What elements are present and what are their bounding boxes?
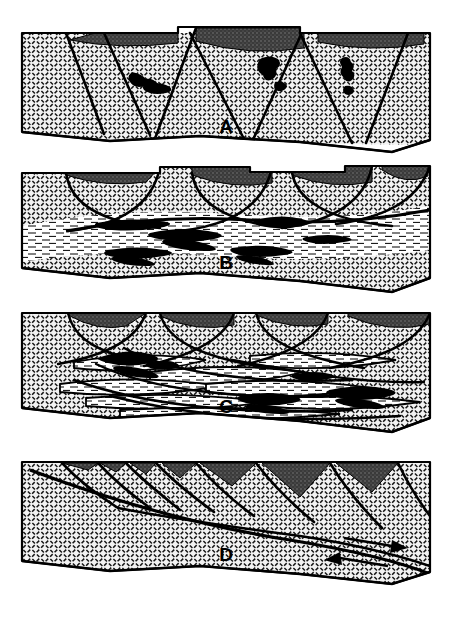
panel-c: C [22, 310, 430, 435]
panel-d-label: D [219, 544, 233, 565]
cross-section-figure: A [0, 0, 452, 620]
panel-c-label: C [219, 396, 233, 417]
figure-root: A [0, 0, 452, 620]
panel-b: B [22, 166, 430, 295]
panel-b-label: B [219, 252, 233, 273]
panel-a: A [22, 27, 430, 152]
panel-a-label: A [219, 116, 233, 137]
panel-d: D [22, 460, 430, 588]
